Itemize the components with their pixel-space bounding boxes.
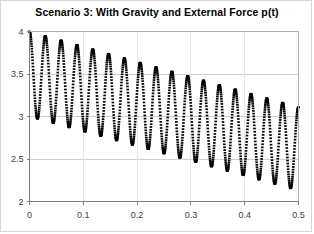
- x-axis-tick-label: 0.3: [185, 210, 198, 220]
- chart-container: Scenario 3: With Gravity and External Fo…: [0, 0, 312, 232]
- y-axis-tick-label: 2: [18, 197, 23, 207]
- y-axis-tick-label: 3.5: [11, 69, 24, 79]
- x-axis-tick-label: 0: [27, 210, 32, 220]
- x-axis-tick-label: 0.5: [292, 210, 305, 220]
- tick-labels: 22.533.5400.10.20.30.40.5: [11, 27, 305, 220]
- x-axis-tick-label: 0.2: [131, 210, 144, 220]
- y-axis-tick-label: 3: [18, 112, 23, 122]
- y-axis-tick-label: 2.5: [11, 154, 24, 164]
- data-series-displacement: [28, 31, 300, 189]
- x-axis-tick-label: 0.1: [77, 210, 90, 220]
- chart-plot-area: 22.533.5400.10.20.30.40.5: [1, 1, 313, 233]
- y-axis-tick-label: 4: [18, 27, 23, 37]
- x-axis-tick-label: 0.4: [238, 210, 251, 220]
